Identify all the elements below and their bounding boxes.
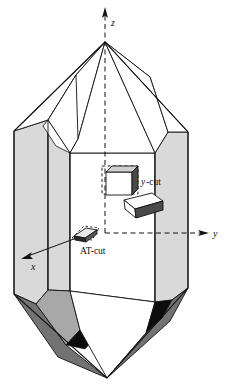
prism-face-left-outer [14, 120, 48, 304]
y-axis-label: y [212, 228, 218, 239]
quartz-crystal-figure: z y x y -cut [0, 0, 225, 386]
z-axis-label: z [110, 17, 115, 28]
at-cut-label: AT-cut [80, 246, 106, 256]
crystal-diagram: z y x y -cut [0, 0, 225, 386]
y-cut-front-face [106, 172, 132, 195]
x-axis-label: x [30, 261, 36, 272]
prism-face-right [155, 132, 188, 302]
y-cut-label-rest: -cut [146, 177, 161, 187]
